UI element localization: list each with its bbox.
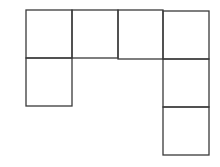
- square-cell-r2c3: [163, 107, 209, 155]
- square-cell-r0c3: [163, 11, 209, 59]
- square-cell-r0c0: [26, 10, 72, 58]
- square-cell-r0c2: [118, 10, 163, 59]
- square-net-diagram: [0, 0, 220, 167]
- square-cell-r0c1: [72, 10, 118, 58]
- square-cell-r1c0: [26, 58, 72, 106]
- square-cell-r1c3: [163, 59, 209, 107]
